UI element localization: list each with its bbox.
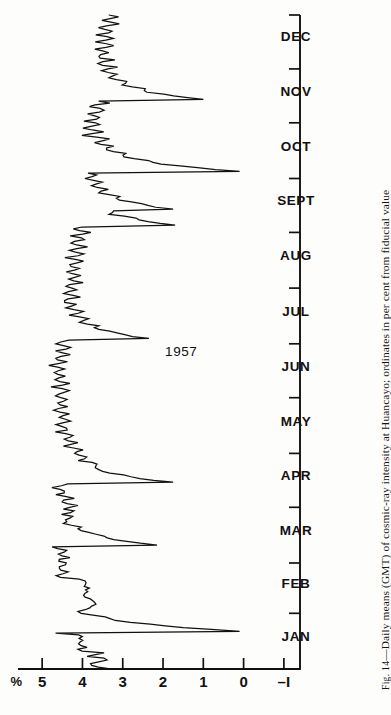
y-tick-label-neg1: –I <box>278 674 291 691</box>
figure-caption: Fig. 14—Daily means (GMT) of cosmic-ray … <box>379 190 391 690</box>
caption-layer: Fig. 14—Daily means (GMT) of cosmic-ray … <box>355 0 389 715</box>
y-axis-tick-labels: 543210–I <box>38 674 290 691</box>
caption-figure-number: Fig. 14 <box>380 661 391 690</box>
x-axis-ticks <box>289 15 300 669</box>
month-label-nov: NOV <box>280 84 311 99</box>
y-tick-label-1: 1 <box>199 674 207 691</box>
y-tick-label-0: 0 <box>239 674 247 691</box>
x-axis-tick-labels: JANFEBMARAPRMAYJUNJULAUGSEPTOCTNOVDEC <box>277 29 315 644</box>
y-tick-label-4: 4 <box>78 674 87 691</box>
rotated-plot-stage: JANFEBMARAPRMAYJUNJULAUGSEPTOCTNOVDEC 54… <box>0 0 391 715</box>
month-label-jul: JUL <box>282 304 309 319</box>
month-label-sept: SEPT <box>277 193 315 208</box>
y-tick-label-2: 2 <box>159 674 167 691</box>
figure-plate: JANFEBMARAPRMAYJUNJULAUGSEPTOCTNOVDEC 54… <box>0 0 391 715</box>
month-label-may: MAY <box>281 414 312 429</box>
month-label-apr: APR <box>281 468 311 483</box>
year-annotation: 1957 <box>165 344 197 359</box>
month-label-dec: DEC <box>281 29 311 44</box>
month-label-aug: AUG <box>280 248 312 263</box>
month-label-jun: JUN <box>282 359 311 374</box>
cosmic-ray-line-chart: JANFEBMARAPRMAYJUNJULAUGSEPTOCTNOVDEC 54… <box>0 0 391 715</box>
caption-dash: — <box>379 649 391 661</box>
y-axis-unit-label: % <box>10 675 22 690</box>
month-label-jan: JAN <box>282 629 311 644</box>
caption-body: Daily means (GMT) of cosmic-ray intensit… <box>379 190 391 649</box>
month-label-feb: FEB <box>282 576 311 591</box>
plot-area: JANFEBMARAPRMAYJUNJULAUGSEPTOCTNOVDEC 54… <box>0 0 391 715</box>
data-curve <box>49 15 240 669</box>
month-label-oct: OCT <box>281 139 311 154</box>
y-tick-label-3: 3 <box>119 674 127 691</box>
y-axis-ticks <box>42 658 284 669</box>
month-label-mar: MAR <box>280 523 313 538</box>
y-tick-label-5: 5 <box>38 674 46 691</box>
